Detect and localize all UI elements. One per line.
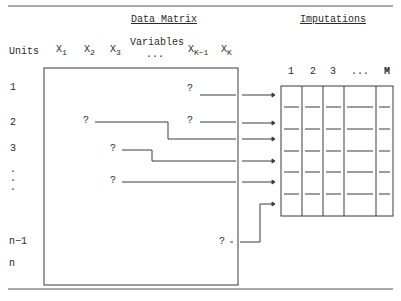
unit-label-2: 2 [10,117,16,129]
unit-label-1: 1 [10,82,16,94]
imputation-header-m: M [384,66,390,78]
var-header-x2: X2 [84,44,95,59]
missing-marker: ? [187,115,193,127]
var-header-x1: X1 [56,44,67,59]
missing-marker: ? [187,83,193,95]
imputations-title: Imputations [300,14,366,26]
data-matrix-box [44,68,238,285]
missing-marker: ? [83,115,89,127]
missing-marker: ? [219,236,225,248]
unit-label-n-1: n−1 [9,236,27,248]
connector-row2-x2 [95,122,236,139]
imputation-header-2: 2 [310,66,316,78]
imputation-header-1: 1 [288,66,294,78]
missing-marker: ? [110,175,116,187]
missing-marker: ? [110,143,116,155]
unit-label-dot3: . [10,182,16,194]
var-header-xk1: XK−1 [188,44,208,59]
connector-row3-x3 [122,150,236,161]
imputation-header-3: 3 [330,66,336,78]
var-header-xk: XK [221,44,232,59]
unit-label-3: 3 [10,143,16,155]
unit-label-n: n [9,258,15,270]
variables-label: Variables [130,37,184,49]
var-header-x3: X3 [110,44,121,59]
units-label: Units [9,46,39,58]
data-matrix-title: Data Matrix [131,14,197,26]
imputation-header-ellipsis: ... [351,66,369,78]
var-header-ellipsis: ... [146,49,164,61]
